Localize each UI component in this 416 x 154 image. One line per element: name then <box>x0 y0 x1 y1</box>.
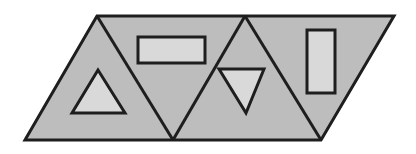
diagram-canvas <box>0 0 416 154</box>
inner-rectangle-horizontal <box>138 37 205 63</box>
inner-rectangle-vertical <box>307 30 335 93</box>
